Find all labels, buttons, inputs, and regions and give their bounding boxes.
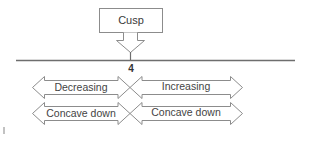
cusp-down-arrow-icon	[117, 33, 145, 53]
cusp-label: Cusp	[118, 15, 144, 26]
right-row-1-label: Increasing	[162, 81, 210, 92]
left-row-2-label: Concave down	[46, 108, 115, 119]
diagram-canvas	[0, 0, 311, 145]
left-row-1-label: Decreasing	[54, 82, 107, 93]
right-row-2-label: Concave down	[151, 107, 220, 118]
cusp-sign-chart: Cusp 4 Decreasing Concave down Increasin…	[0, 0, 311, 145]
tick-label-4: 4	[128, 64, 134, 74]
scan-artifact-mark	[3, 127, 5, 134]
